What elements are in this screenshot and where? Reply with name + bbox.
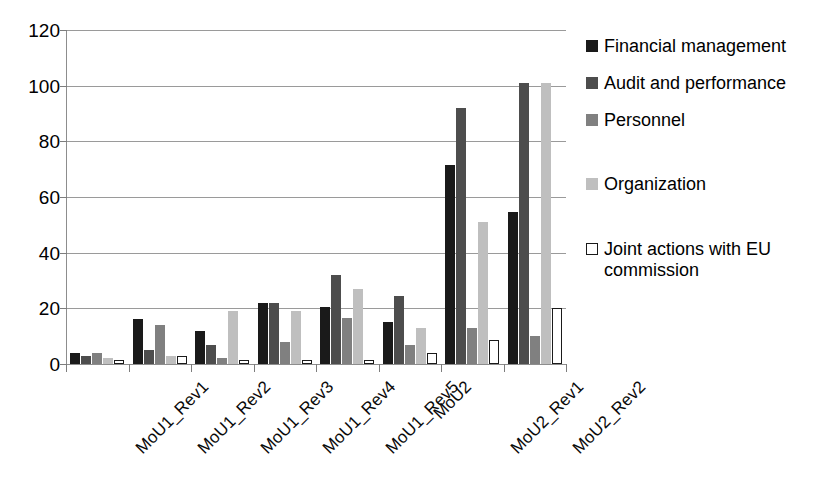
bar [427, 353, 437, 364]
bar [92, 353, 102, 364]
legend-swatch-icon [586, 114, 598, 126]
y-tick-label: 60 [2, 188, 60, 207]
x-tick-mark [129, 364, 130, 372]
y-tick-label: 80 [2, 132, 60, 151]
legend-item[interactable]: Financial management [586, 36, 811, 57]
y-tick-mark [60, 30, 67, 31]
legend-label: Joint actions with EU commission [604, 239, 804, 281]
bar [144, 350, 154, 364]
bar [445, 165, 455, 364]
bar [519, 83, 529, 364]
y-tick-mark [60, 253, 67, 254]
x-tick-mark [441, 364, 442, 372]
y-tick-label: 120 [2, 21, 60, 40]
legend-item[interactable]: Organization [586, 174, 811, 195]
y-tick-label: 100 [2, 76, 60, 95]
bar-group [191, 30, 254, 364]
x-tick-mark [566, 364, 567, 372]
legend-label: Organization [604, 174, 706, 195]
x-tick-mark [379, 364, 380, 372]
bar [405, 345, 415, 364]
bar [155, 325, 165, 364]
bar-group [254, 30, 317, 364]
bar [416, 328, 426, 364]
y-tick-mark [60, 308, 67, 309]
bar [394, 296, 404, 364]
bar [133, 319, 143, 364]
bar [166, 356, 176, 364]
y-tick-mark [60, 364, 67, 365]
bar [478, 222, 488, 364]
y-tick-label: 40 [2, 243, 60, 262]
bar-group [441, 30, 504, 364]
bar [195, 331, 205, 364]
plot-area [66, 30, 566, 364]
bar [467, 328, 477, 364]
bar [269, 303, 279, 364]
bar [489, 340, 499, 364]
legend-item[interactable]: Joint actions with EU commission [586, 239, 811, 281]
x-tick-mark [316, 364, 317, 372]
bar [552, 308, 562, 364]
bar-group [504, 30, 567, 364]
bar [508, 212, 518, 364]
y-tick-mark [60, 197, 67, 198]
bar [206, 345, 216, 364]
y-tick-label: 20 [2, 299, 60, 318]
legend-item[interactable]: Audit and performance [586, 73, 811, 94]
bar-group [129, 30, 192, 364]
bar [258, 303, 268, 364]
legend-swatch-icon [586, 243, 598, 255]
bar [383, 322, 393, 364]
bar-group [66, 30, 129, 364]
legend-swatch-icon [586, 40, 598, 52]
legend-swatch-icon [586, 77, 598, 89]
bar [530, 336, 540, 364]
x-tick-mark [66, 364, 67, 372]
bar [228, 311, 238, 364]
bar [177, 356, 187, 364]
bar [280, 342, 290, 364]
bar-group [379, 30, 442, 364]
bar-chart-figure: 120100806040200 MoU1_Rev1MoU1_Rev2MoU1_R… [0, 0, 813, 485]
legend-swatch-icon [586, 178, 598, 190]
chart-legend: Financial managementAudit and performanc… [586, 36, 811, 291]
x-tick-mark [254, 364, 255, 372]
bar [342, 318, 352, 364]
legend-item[interactable]: Personnel [586, 110, 811, 131]
bar-group [316, 30, 379, 364]
x-axis-tick-labels: MoU1_Rev1MoU1_Rev2MoU1_Rev3MoU1_Rev4MoU1… [0, 372, 600, 485]
bar-series-container [66, 30, 566, 364]
bar [320, 307, 330, 364]
y-tick-label: 0 [2, 355, 60, 374]
bar [353, 289, 363, 364]
bar [70, 353, 80, 364]
bar [331, 275, 341, 364]
legend-label: Personnel [604, 110, 685, 131]
x-tick-mark [191, 364, 192, 372]
legend-label: Financial management [604, 36, 786, 57]
x-tick-mark [504, 364, 505, 372]
bar [81, 356, 91, 364]
bar [456, 108, 466, 364]
legend-label: Audit and performance [604, 73, 786, 94]
y-tick-mark [60, 86, 67, 87]
bar [541, 83, 551, 364]
x-tick-label: MoU2 [431, 378, 475, 422]
y-tick-mark [60, 141, 67, 142]
bar [291, 311, 301, 364]
